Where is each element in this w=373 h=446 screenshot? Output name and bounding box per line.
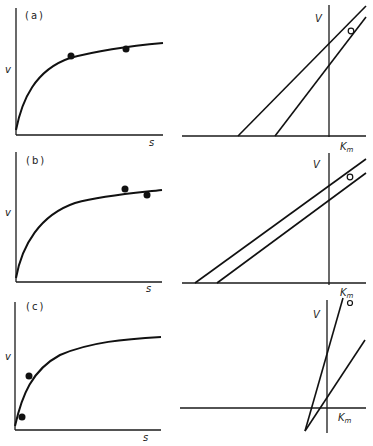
panel-b-left: (b) v s (5, 152, 162, 294)
line-1 (195, 159, 366, 283)
km-label: Km (340, 287, 354, 300)
mm-curve (16, 43, 163, 130)
panel-c-right: V Km (180, 298, 366, 433)
panel-c-left: (c) v s (5, 301, 161, 443)
intersection-marker (347, 174, 353, 180)
y-axis-label: v (5, 207, 12, 218)
data-point (26, 373, 33, 380)
x-axis-label: s (146, 283, 151, 294)
line-2 (275, 17, 366, 136)
line-2 (305, 340, 365, 431)
x-axis-label: s (143, 432, 148, 443)
panel-a-left: (a) v s (5, 8, 163, 148)
km-label: Km (338, 412, 352, 425)
line-1 (238, 6, 366, 136)
panel-label: (a) (25, 10, 45, 21)
v-label: V (315, 13, 323, 24)
x-axis-label: s (149, 137, 154, 148)
mm-curve (16, 190, 162, 278)
panel-b-right: V Km (182, 153, 366, 300)
mm-curve (15, 337, 161, 426)
data-point (122, 186, 129, 193)
panel-a-right: V Km (182, 5, 366, 154)
panel-label: (b) (26, 155, 46, 166)
data-point (68, 53, 75, 60)
data-point (144, 192, 151, 199)
intersection-marker (348, 28, 354, 34)
v-label: V (313, 159, 321, 170)
figure-canvas: (a) v s V Km (b) v s V Km (0, 0, 373, 446)
y-axis-label: v (5, 64, 12, 75)
y-axis-label: v (5, 351, 12, 362)
km-label: Km (340, 141, 354, 154)
intersection-marker (348, 301, 353, 306)
v-label: V (313, 309, 321, 320)
line-2 (217, 173, 366, 283)
data-point (123, 46, 130, 53)
panel-label: (c) (26, 301, 45, 312)
data-point (19, 414, 26, 421)
